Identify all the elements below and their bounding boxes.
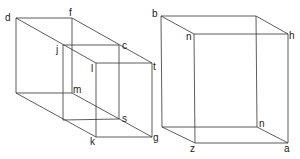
label-f: f — [69, 7, 72, 18]
label-j: j — [55, 44, 58, 55]
label-b: b — [152, 8, 158, 19]
left-box: d f j c l t m s k g — [5, 7, 159, 147]
edge-top-h — [256, 16, 288, 34]
edge-back-right — [256, 16, 257, 127]
right-box: b n h n z a — [152, 8, 295, 154]
label-a: a — [284, 143, 290, 154]
edge-mid-bottom — [63, 119, 119, 120]
label-g: g — [153, 132, 159, 143]
edge-bl-z — [162, 127, 195, 143]
edge-n-a — [257, 127, 288, 143]
label-c: c — [122, 40, 127, 51]
label-z: z — [190, 143, 195, 154]
label-k: k — [90, 136, 96, 147]
label-l: l — [91, 63, 93, 74]
label-s: s — [122, 113, 127, 124]
label-h: h — [289, 30, 295, 41]
label-n-top: n — [186, 31, 192, 42]
diagram-canvas: d f j c l t m s k g b n h n z a — [0, 0, 300, 159]
edge-b-down — [161, 16, 162, 127]
label-d: d — [5, 12, 11, 23]
label-m: m — [73, 84, 81, 95]
label-t: t — [153, 61, 156, 72]
label-n-bottom: n — [259, 118, 265, 129]
